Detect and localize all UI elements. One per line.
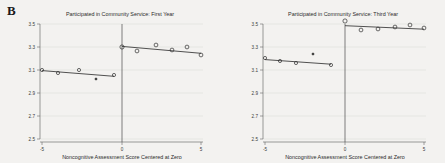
data-point [376,27,380,31]
chart-first-year: Participated in Community Service: First… [0,0,222,163]
gridlines-first-year [40,24,203,139]
y-tick-label: 2.9 [252,91,259,96]
data-point [343,19,347,23]
fit-line-above-cutoff [345,26,424,30]
y-tick-label: 3.1 [29,68,36,73]
fit-line-below-cutoff [265,60,331,65]
y-axis-third-year: 3.5 3.3 3.1 2.9 2.7 2.5 [252,22,263,142]
y-tick-label: 2.7 [29,114,36,119]
data-point [422,26,426,30]
gridlines-third-year [263,24,426,139]
x-tick-label: -5 [40,147,45,152]
x-axis-title: Noncognitive Assessment Score Centered a… [285,154,405,160]
data-point [170,48,174,52]
y-tick-label: 3.5 [252,22,259,27]
x-tick-label: -5 [263,147,268,152]
y-tick-label: 3.5 [29,22,36,27]
y-tick-label: 2.5 [29,137,36,142]
x-tick-label: 5 [200,147,203,152]
y-tick-label: 3.1 [252,68,259,73]
chart-svg-first-year: Participated in Community Service: First… [0,0,222,163]
data-point [135,49,139,53]
data-point [359,28,363,32]
x-tick-label: 5 [423,147,426,152]
y-tick-label: 2.5 [252,137,259,142]
chart-title: Participated in Community Service: First… [66,11,174,17]
x-axis-first-year: -5 0 5 [40,142,203,152]
x-axis-third-year: -5 0 5 [263,142,426,152]
data-point [312,53,314,55]
y-tick-label: 3.3 [252,45,259,50]
data-point [199,53,203,57]
chart-third-year: Participated in Community Service: Third… [223,0,445,163]
data-point [154,43,158,47]
data-point [95,78,97,80]
y-tick-label: 2.9 [29,91,36,96]
chart-svg-third-year: Participated in Community Service: Third… [223,0,445,163]
data-points-below-cutoff [263,53,332,67]
data-point [408,23,412,27]
x-tick-label: 0 [344,147,347,152]
x-axis-title: Noncognitive Assessment Score Centered a… [62,154,182,160]
y-axis-first-year: 3.5 3.3 3.1 2.9 2.7 2.5 [29,22,40,142]
data-point [263,56,266,59]
chart-title: Participated in Community Service: Third… [288,11,398,17]
x-tick-label: 0 [121,147,124,152]
figure-panel-b: B Participated in Community Service: Fir… [0,0,445,163]
y-tick-label: 2.7 [252,114,259,119]
y-tick-label: 3.3 [29,45,36,50]
data-points-above-cutoff [343,19,426,32]
